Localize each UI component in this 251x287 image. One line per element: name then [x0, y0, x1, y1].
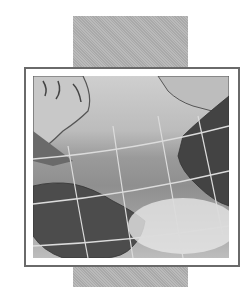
globe-icon: [33, 76, 229, 258]
map-frame: [24, 67, 240, 267]
globe-map-image: [33, 76, 229, 258]
